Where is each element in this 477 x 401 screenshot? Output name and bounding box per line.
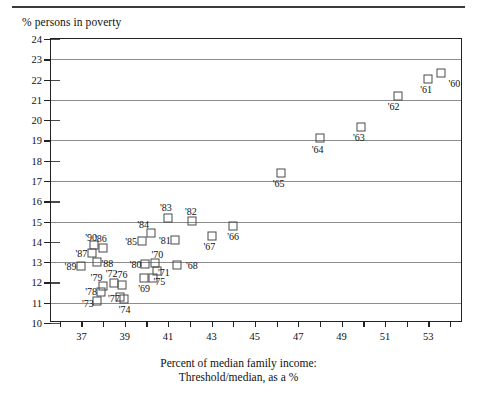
y-tick-label-18: 18 — [20, 155, 42, 166]
x-tick-46 — [277, 321, 278, 327]
x-tick-41 — [168, 321, 169, 327]
x-tick-label-47: 47 — [293, 331, 304, 342]
y-tick-label-19: 19 — [20, 135, 42, 146]
data-point-label-y75: '75 — [153, 276, 165, 287]
data-point-label-y78: '78 — [85, 285, 97, 296]
data-point-label-y82: '82 — [185, 206, 197, 217]
y-tick-22 — [44, 80, 51, 81]
y-tick-inner-10 — [51, 323, 60, 324]
gridline-y-19 — [51, 140, 461, 141]
y-tick-16 — [44, 201, 51, 202]
y-tick-label-23: 23 — [20, 54, 42, 65]
x-tick-53 — [428, 321, 429, 327]
x-tick-37 — [81, 321, 82, 327]
data-point-label-y88: '88 — [101, 258, 113, 269]
data-point-label-y61: '61 — [420, 83, 432, 94]
data-point-label-y67: '67 — [203, 240, 215, 251]
x-tick-39 — [125, 321, 126, 327]
data-point-y82 — [187, 216, 196, 225]
y-tick-label-14: 14 — [20, 236, 42, 247]
x-tick-label-53: 53 — [423, 331, 434, 342]
y-tick-label-11: 11 — [20, 297, 42, 308]
data-point-label-y69: '69 — [138, 282, 150, 293]
y-tick-24 — [44, 39, 51, 40]
y-tick-23 — [44, 59, 51, 60]
data-point-y67 — [207, 231, 216, 240]
y-tick-label-10: 10 — [20, 318, 42, 329]
data-point-y83 — [164, 213, 173, 222]
data-point-label-y64: '64 — [312, 143, 324, 154]
data-point-y87 — [88, 249, 97, 258]
x-tick-label-37: 37 — [76, 331, 87, 342]
data-point-y68 — [172, 261, 181, 270]
x-tick-42 — [190, 321, 191, 327]
data-point-label-y70: '70 — [151, 249, 163, 260]
x-tick-40 — [146, 321, 147, 327]
data-point-label-y73: '73 — [82, 297, 94, 308]
data-point-y62 — [393, 91, 402, 100]
x-tick-45 — [255, 321, 256, 327]
data-point-y61 — [424, 74, 433, 83]
data-point-label-y66: '66 — [227, 230, 239, 241]
y-tick-inner-20 — [51, 120, 60, 121]
x-tick-label-41: 41 — [163, 331, 174, 342]
data-point-y81 — [170, 235, 179, 244]
data-point-label-y79: '79 — [91, 272, 103, 283]
y-tick-11 — [44, 303, 51, 304]
x-tick-47 — [298, 321, 299, 327]
x-tick-38 — [103, 321, 104, 327]
y-tick-label-12: 12 — [20, 277, 42, 288]
x-tick-43 — [212, 321, 213, 327]
y-tick-12 — [44, 282, 51, 283]
y-tick-inner-14 — [51, 242, 60, 243]
y-tick-18 — [44, 161, 51, 162]
data-point-y63 — [357, 123, 366, 132]
data-point-label-y89: '89 — [65, 261, 77, 272]
data-point-y84 — [146, 228, 155, 237]
y-tick-13 — [44, 262, 51, 263]
x-tick-49 — [342, 321, 343, 327]
data-point-label-y85: '85 — [125, 235, 137, 246]
y-tick-21 — [44, 100, 51, 101]
data-point-label-y76: '76 — [116, 269, 128, 280]
y-tick-label-22: 22 — [20, 74, 42, 85]
data-point-y60 — [437, 68, 446, 77]
data-point-y76 — [117, 280, 126, 289]
x-tick-label-51: 51 — [380, 331, 391, 342]
y-tick-15 — [44, 222, 51, 223]
y-tick-19 — [44, 140, 51, 141]
y-tick-label-15: 15 — [20, 216, 42, 227]
x-axis-title-line1: Percent of median family income: — [0, 356, 477, 370]
y-tick-inner-24 — [51, 39, 60, 40]
y-tick-label-20: 20 — [20, 115, 42, 126]
x-tick-52 — [407, 321, 408, 327]
y-tick-label-17: 17 — [20, 176, 42, 187]
data-point-label-y81: '81 — [159, 234, 171, 245]
data-point-label-y68: '68 — [186, 260, 198, 271]
data-point-label-y80: '80 — [130, 259, 142, 270]
data-point-label-y60: '60 — [448, 77, 460, 88]
data-point-label-y77: '77 — [108, 292, 120, 303]
plot-frame: 101112131415161718192021222324 373941434… — [50, 38, 462, 322]
data-point-label-y83: '83 — [160, 202, 172, 213]
x-tick-label-49: 49 — [336, 331, 347, 342]
y-tick-label-24: 24 — [20, 34, 42, 45]
x-tick-48 — [320, 321, 321, 327]
y-tick-inner-18 — [51, 161, 60, 162]
data-point-label-y74: '74 — [119, 303, 131, 314]
y-tick-20 — [44, 120, 51, 121]
data-point-y80 — [141, 260, 150, 269]
y-tick-inner-22 — [51, 80, 60, 81]
x-tick-54 — [450, 321, 451, 327]
gridline-y-15 — [51, 222, 461, 223]
x-axis-title: Percent of median family income: Thresho… — [0, 356, 477, 384]
y-tick-inner-16 — [51, 201, 60, 202]
x-tick-label-43: 43 — [206, 331, 217, 342]
data-point-y85 — [138, 236, 147, 245]
x-axis-title-line2: Threshold/median, as a % — [0, 370, 477, 384]
data-point-label-y90: '90 — [85, 231, 97, 242]
y-tick-17 — [44, 181, 51, 182]
data-point-y89 — [77, 262, 86, 271]
data-point-y66 — [229, 221, 238, 230]
y-tick-10 — [44, 323, 51, 324]
